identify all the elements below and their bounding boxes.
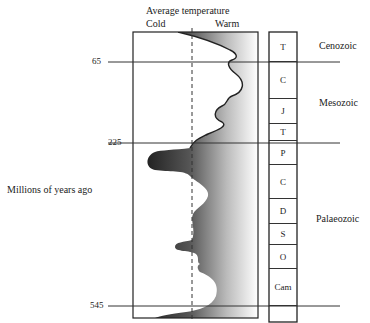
- y-axis-label: Millions of years ago: [7, 184, 92, 195]
- tick-545: 545: [90, 300, 104, 310]
- era-cenozoic: Cenozoic: [319, 40, 357, 51]
- period-tertiary: T: [269, 32, 297, 62]
- period-ordovician: O: [269, 245, 297, 269]
- chart-title: Average temperature: [146, 5, 229, 16]
- tick-65: 65: [92, 56, 101, 66]
- era-mesozoic: Mesozoic: [319, 97, 358, 108]
- period-cretaceous: C: [269, 62, 297, 99]
- temperature-diagram: [0, 0, 370, 323]
- period-jurassic: J: [269, 99, 297, 124]
- period-carboniferous: C: [269, 165, 297, 199]
- temperature-shading: [133, 32, 258, 318]
- period-silurian: S: [269, 224, 297, 245]
- warm-label: Warm: [215, 18, 239, 29]
- period-devonian: D: [269, 199, 297, 224]
- period-triassic: T: [269, 124, 297, 141]
- era-palaeozoic: Palaeozoic: [316, 213, 359, 224]
- tick-225: 225: [108, 137, 122, 147]
- period-cambrian: Cam: [269, 269, 297, 306]
- period-permian: P: [269, 141, 297, 165]
- cold-label: Cold: [146, 18, 165, 29]
